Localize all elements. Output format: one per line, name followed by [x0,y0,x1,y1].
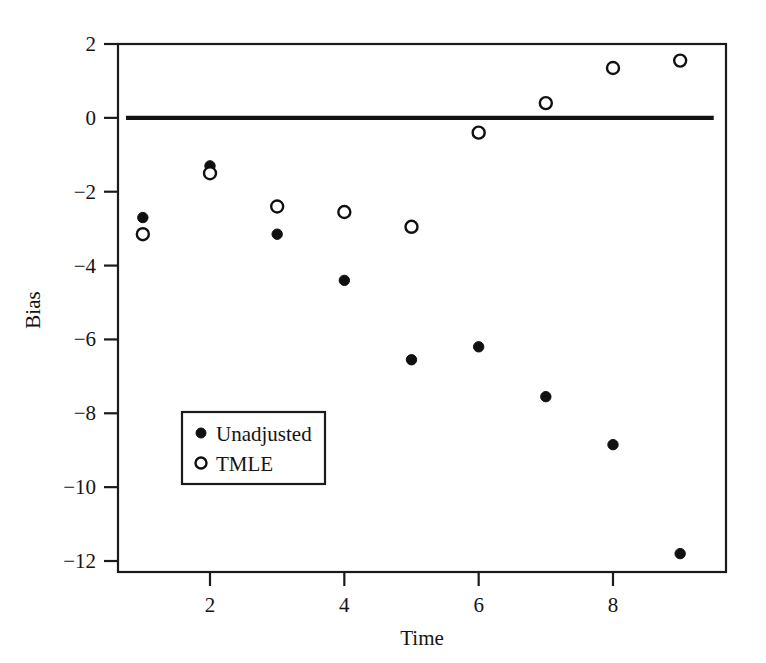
y-tick-label: −10 [63,475,96,499]
data-point-tmle [540,97,552,109]
data-point-unadjusted [138,212,148,222]
y-tick-label: −6 [74,327,96,351]
x-tick-label: 2 [205,593,216,617]
x-tick-label: 8 [608,593,619,617]
y-tick-label: 0 [86,106,97,130]
data-point-unadjusted [541,391,551,401]
legend[interactable]: Unadjusted TMLE [182,412,325,484]
data-point-tmle [137,228,149,240]
x-axis-title: Time [400,626,444,650]
axes-box [118,44,726,572]
legend-marker-unadjusted-icon [196,428,206,438]
y-tick-label: −12 [63,549,96,573]
y-axis-title: Bias [21,291,45,328]
x-axis-ticks: 2468 [205,572,619,617]
data-point-unadjusted [406,355,416,365]
y-tick-label: −8 [74,401,96,425]
data-point-unadjusted [339,275,349,285]
bias-vs-time-scatter-plot: 20−2−4−6−8−10−12 2468 Time Bias Unadjust… [0,0,766,663]
data-point-tmle [674,55,686,67]
data-point-unadjusted [473,342,483,352]
figure-container: 20−2−4−6−8−10−12 2468 Time Bias Unadjust… [0,0,766,663]
data-point-tmle [473,127,485,139]
x-tick-label: 6 [473,593,484,617]
legend-label-unadjusted: Unadjusted [216,422,312,446]
y-tick-label: −4 [74,254,97,278]
data-point-tmle [338,206,350,218]
legend-label-tmle: TMLE [216,452,273,476]
x-tick-label: 4 [339,593,350,617]
plot-frame [118,44,726,572]
data-point-tmle [607,62,619,74]
y-axis-ticks: 20−2−4−6−8−10−12 [63,32,118,573]
y-tick-label: 2 [86,32,97,56]
legend-marker-tmle-icon [196,458,207,469]
data-point-unadjusted [272,229,282,239]
data-point-tmle [406,221,418,233]
series-tmle-points [137,55,686,241]
data-point-tmle [204,167,216,179]
y-tick-label: −2 [74,180,96,204]
data-point-tmle [271,200,283,212]
data-point-unadjusted [675,548,685,558]
data-point-unadjusted [608,439,618,449]
